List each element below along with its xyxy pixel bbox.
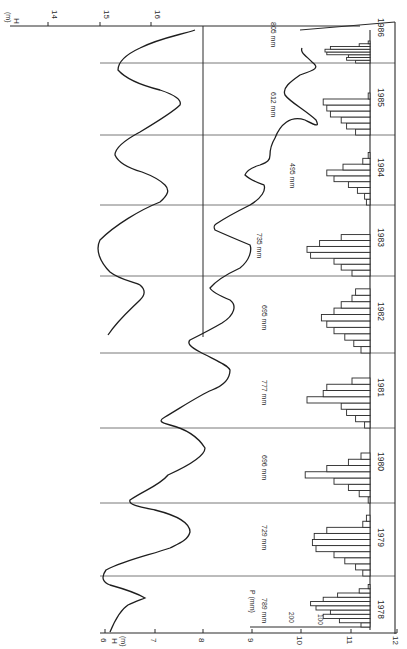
precip-bar [312, 540, 370, 546]
precip-bar [323, 99, 370, 105]
lower-h-unit: (m) [119, 636, 127, 647]
precip-bar [348, 182, 370, 188]
precip-1982: 695 mm [261, 305, 268, 330]
precip-bar [343, 164, 370, 170]
tick-9: 9 [246, 638, 255, 643]
tick-6: 6 [99, 638, 108, 643]
precip-bar [354, 340, 370, 346]
year-1986: 1986 [376, 18, 386, 37]
precipitation-bars [305, 41, 370, 627]
precip-bar [368, 153, 370, 159]
precip-1984: 495 mm [289, 163, 296, 188]
precip-bar [323, 614, 370, 618]
precip-bar [334, 478, 370, 484]
upper-h-unit: (m) [4, 12, 12, 23]
tick-8: 8 [197, 638, 206, 643]
precip-bar [366, 199, 370, 205]
precip-bar [347, 409, 370, 415]
precip-bar [359, 589, 370, 593]
precip-bar [368, 93, 370, 99]
lower-h-axis: 6 7 8 9 10 11 12 H (m) [99, 629, 400, 647]
precip-1978: 789 mm [261, 598, 268, 623]
precip-bar [320, 241, 370, 247]
precip-1985: 612 mm [270, 92, 277, 117]
precip-bar [363, 570, 370, 576]
upper-h-axis: H (m) 14 15 16 [4, 10, 360, 337]
precip-bar [327, 527, 370, 533]
year-1981: 1981 [376, 378, 386, 397]
precip-bar [348, 459, 370, 465]
year-1982: 1982 [376, 302, 386, 321]
precip-bar [316, 546, 370, 552]
tick-7: 7 [149, 638, 158, 643]
year-1984: 1984 [376, 158, 386, 177]
precip-bar [321, 315, 370, 321]
precip-bar [356, 564, 370, 570]
precip-bar [334, 258, 370, 264]
precip-bar [361, 453, 370, 459]
p-tick-200: 200 [288, 612, 295, 623]
precip-bar [307, 246, 370, 252]
precip-bar [363, 158, 370, 164]
precip-bar [361, 347, 370, 353]
precip-bar [366, 515, 370, 521]
p-axis-label: P (mm) [248, 590, 256, 613]
precip-bar [345, 334, 370, 340]
precip-bar [327, 466, 370, 472]
precip-bar [356, 416, 370, 422]
precip-bar [357, 188, 370, 194]
precip-bar [330, 610, 370, 614]
precip-bar [311, 602, 370, 606]
water-level-curve-lower [103, 48, 317, 632]
tick-11: 11 [345, 636, 354, 645]
precip-bar [365, 193, 370, 199]
precip-bar [341, 264, 370, 270]
precip-bar [334, 552, 370, 558]
year-1983: 1983 [376, 228, 386, 247]
precip-bar [341, 117, 370, 123]
precip-bar [334, 176, 370, 182]
annual-precip-labels: 789 mm 729 mm 696 mm 777 mm 695 mm 735 m… [256, 22, 296, 623]
precip-bar [330, 111, 370, 117]
precip-bar [311, 252, 370, 258]
tick-15: 15 [102, 10, 111, 19]
precip-bar [359, 491, 370, 497]
precip-bar [341, 403, 370, 409]
precip-bar [323, 391, 370, 397]
tick-12: 12 [391, 636, 400, 645]
precip-bar [341, 235, 370, 241]
upper-h-label: H [12, 18, 21, 24]
precip-bar [348, 484, 370, 490]
tick-14: 14 [50, 10, 59, 19]
year-labels: 1978 1979 1980 1981 1982 1983 1984 1985 … [376, 18, 386, 619]
precip-bar [327, 170, 370, 176]
precip-bar [307, 397, 370, 403]
tick-16: 16 [153, 10, 162, 19]
precip-bar [314, 533, 370, 539]
precip-bar [347, 123, 370, 129]
tick-10: 10 [295, 636, 304, 645]
year-1985: 1985 [376, 88, 386, 107]
precip-bar [305, 472, 370, 478]
precip-bar [327, 384, 370, 390]
precip-bar [356, 129, 370, 135]
precip-bar [323, 597, 370, 601]
precip-bar [339, 619, 370, 623]
precip-bar [356, 289, 370, 295]
year-1978: 1978 [376, 600, 386, 619]
precip-bar [368, 585, 370, 589]
precip-bar [334, 327, 370, 333]
precip-bar [341, 302, 370, 308]
precip-1981: 777 mm [261, 380, 268, 405]
precip-bar [368, 41, 370, 44]
precip-bar [338, 593, 370, 597]
precip-1979: 729 mm [261, 525, 268, 550]
year-1979: 1979 [376, 528, 386, 547]
water-level-curve-upper [98, 30, 195, 335]
precip-1986: 805 mm [270, 22, 277, 47]
precip-bar [327, 321, 370, 327]
precip-bar [334, 308, 370, 314]
precip-1983: 735 mm [256, 233, 263, 258]
precip-bar [352, 270, 370, 276]
precip-bar [361, 623, 370, 627]
